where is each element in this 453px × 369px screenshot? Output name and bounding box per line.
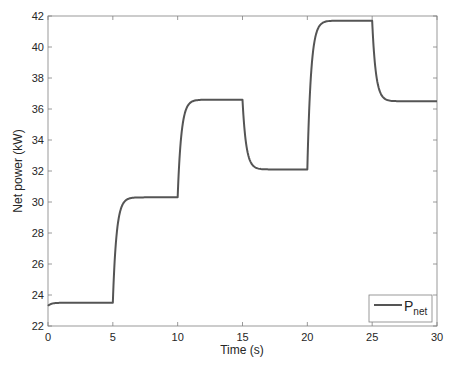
y-tick-label: 28 [32,227,44,239]
y-tick-label: 26 [32,258,44,270]
y-tick-label: 32 [32,165,44,177]
x-tick-label: 5 [110,331,116,343]
x-tick-label: 20 [301,331,313,343]
line-chart: 0510152025302224262830323436384042 Pnet … [0,0,453,369]
y-tick-label: 24 [32,289,44,301]
legend-label-main: P [404,298,413,314]
y-axis-label: Net power (kW) [11,129,25,212]
y-tick-label: 34 [32,134,44,146]
x-tick-label: 15 [236,331,248,343]
y-tick-label: 40 [32,41,44,53]
x-axis-label: Time (s) [220,343,264,357]
y-tick-label: 42 [32,10,44,22]
y-tick-label: 38 [32,72,44,84]
legend-label-subscript: net [413,306,427,317]
y-tick-label: 36 [32,103,44,115]
x-tick-label: 10 [172,331,184,343]
x-tick-label: 30 [431,331,443,343]
x-tick-label: 0 [45,331,51,343]
y-tick-label: 30 [32,196,44,208]
y-tick-label: 22 [32,320,44,332]
legend: Pnet [369,295,432,322]
x-tick-label: 25 [366,331,378,343]
